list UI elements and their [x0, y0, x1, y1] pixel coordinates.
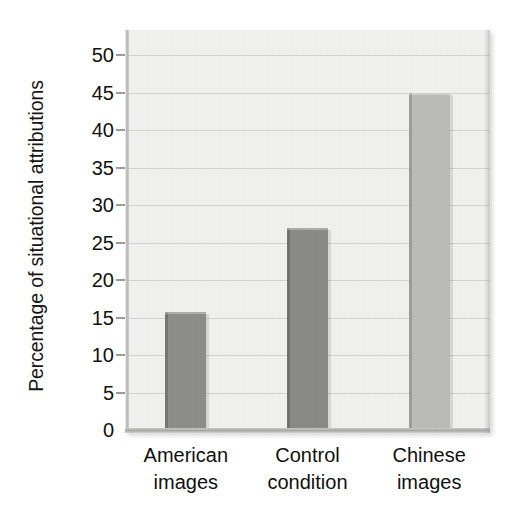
bar-top-edge: [165, 312, 206, 314]
x-category-label: Chineseimages: [368, 442, 490, 496]
bar-fill: [409, 93, 450, 431]
x-category-label-line: Control: [247, 442, 369, 469]
bar-fill: [287, 228, 328, 431]
y-tick-mark: [116, 354, 125, 356]
y-tick-label: 45: [56, 83, 114, 103]
x-axis-spine: [125, 428, 490, 433]
bar: [165, 312, 206, 430]
x-category-label-line: images: [368, 469, 490, 496]
bar-top-edge: [409, 93, 450, 95]
y-tick-label: 15: [56, 308, 114, 328]
plot-right-edge-shade: [484, 30, 490, 433]
bar-left-edge: [409, 93, 412, 431]
x-axis-category-labels: AmericanimagesControlconditionChineseima…: [125, 442, 490, 512]
bar-left-edge: [165, 312, 168, 430]
plot-area: [125, 30, 490, 433]
y-tick-label: 40: [56, 120, 114, 140]
y-tick-mark: [116, 279, 125, 281]
y-axis-tick-labels: 05101520253035404550: [56, 30, 114, 433]
y-tick-label: 0: [56, 420, 114, 440]
y-tick-label: 50: [56, 45, 114, 65]
x-category-label: Controlcondition: [247, 442, 369, 496]
y-tick-mark: [116, 392, 125, 394]
bar-right-shadow: [206, 314, 209, 430]
x-category-label-line: American: [125, 442, 247, 469]
y-tick-label: 35: [56, 158, 114, 178]
y-tick-label: 20: [56, 270, 114, 290]
y-tick-label: 25: [56, 233, 114, 253]
bar-right-shadow: [328, 230, 331, 431]
y-tick-mark: [116, 317, 125, 319]
bar-right-shadow: [450, 95, 453, 431]
y-tick-label: 5: [56, 383, 114, 403]
x-category-label-line: Chinese: [368, 442, 490, 469]
y-tick-mark: [116, 129, 125, 131]
bar: [287, 228, 328, 431]
x-category-label: Americanimages: [125, 442, 247, 496]
bar-fill: [165, 312, 206, 430]
bar: [409, 93, 450, 431]
y-axis-spine: [125, 30, 129, 433]
y-tick-label: 10: [56, 345, 114, 365]
y-tick-mark: [116, 54, 125, 56]
y-tick-mark: [116, 242, 125, 244]
y-tick-mark: [116, 204, 125, 206]
bar-top-edge: [287, 228, 328, 230]
gridline: [125, 55, 490, 56]
bar-left-edge: [287, 228, 290, 431]
y-tick-label: 30: [56, 195, 114, 215]
y-tick-mark: [116, 167, 125, 169]
y-axis-title: Percentage of situational attributions: [14, 6, 58, 466]
x-category-label-line: condition: [247, 469, 369, 496]
bar-chart-figure: Percentage of situational attributions 0…: [0, 0, 517, 527]
y-tick-mark: [116, 92, 125, 94]
x-category-label-line: images: [125, 469, 247, 496]
